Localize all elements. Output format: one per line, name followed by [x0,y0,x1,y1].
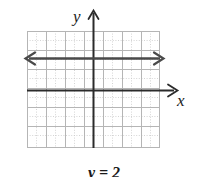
x-axis-label: x [177,92,185,109]
x-axis [27,85,178,97]
coordinate-plane-figure: y x y = 2 [0,0,208,177]
y-axis-label: y [73,8,81,25]
figure-caption: y = 2 [0,165,208,177]
coordinate-plane-svg [0,0,208,177]
